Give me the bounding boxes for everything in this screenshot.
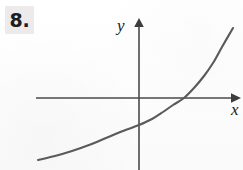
- y-axis: [134, 18, 144, 170]
- y-axis-arrow-icon: [134, 18, 144, 27]
- x-axis-label: x: [231, 101, 239, 118]
- exponential-curve: [38, 28, 233, 160]
- y-axis-label: y: [117, 17, 125, 34]
- exponential-graph-figure: 8. y x: [0, 0, 243, 170]
